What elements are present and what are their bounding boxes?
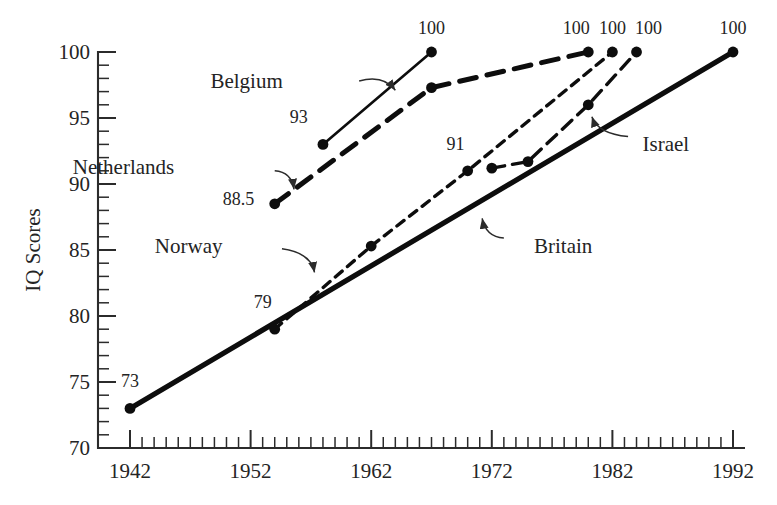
data-point-norway: [366, 241, 377, 252]
y-axis-title: IQ Scores: [21, 208, 45, 291]
y-tick-label: 75: [69, 370, 90, 394]
series-line-norway: [275, 52, 613, 329]
point-value-label: 100: [599, 18, 626, 38]
point-value-label: 88.5: [223, 189, 255, 209]
data-point-israel: [631, 47, 642, 58]
x-tick-label: 1952: [230, 459, 272, 483]
annotation-leader-norway: [282, 249, 315, 273]
x-tick-label: 1972: [471, 459, 513, 483]
series-line-britain: [130, 52, 733, 408]
series-annotations-group: BelgiumNetherlandsNorwayBritainIsrael: [73, 69, 690, 272]
series-annotation-norway: Norway: [155, 234, 223, 258]
y-tick-label: 100: [59, 40, 91, 64]
data-point-netherlands: [269, 198, 280, 209]
point-value-label: 79: [254, 292, 272, 312]
y-tick-label: 95: [69, 106, 90, 130]
y-tick-label: 70: [69, 436, 90, 460]
iq-scores-line-chart: 707580859095100194219521962197219821992 …: [0, 0, 777, 505]
data-point-israel: [523, 156, 534, 167]
x-tick-label: 1942: [109, 459, 151, 483]
y-tick-label: 80: [69, 304, 90, 328]
data-point-norway: [607, 47, 618, 58]
x-tick-label: 1992: [712, 459, 754, 483]
point-value-label: 93: [290, 107, 308, 127]
axes-group: 707580859095100194219521962197219821992: [59, 40, 755, 483]
data-point-britain: [728, 47, 739, 58]
annotation-leader-netherlands: [275, 171, 294, 189]
point-value-label: 100: [635, 18, 662, 38]
point-value-label: 100: [720, 18, 747, 38]
point-value-label: 73: [121, 371, 139, 391]
series-annotation-belgium: Belgium: [210, 69, 282, 93]
y-axis-title-group: IQ Scores: [21, 208, 45, 291]
data-point-norway: [462, 165, 473, 176]
series-group: [130, 52, 733, 408]
data-point-netherlands: [426, 82, 437, 93]
point-value-label: 91: [447, 134, 465, 154]
data-point-israel: [486, 163, 497, 174]
data-point-britain: [125, 403, 136, 414]
series-annotation-britain: Britain: [534, 234, 593, 258]
data-point-belgium: [426, 47, 437, 58]
data-point-belgium: [318, 139, 329, 150]
data-point-netherlands: [583, 47, 594, 58]
series-annotation-netherlands: Netherlands: [73, 155, 174, 179]
series-line-netherlands: [275, 52, 589, 204]
y-tick-label: 85: [69, 238, 90, 262]
x-tick-label: 1982: [591, 459, 633, 483]
point-value-label: 100: [418, 18, 445, 38]
data-point-norway: [269, 324, 280, 335]
point-value-label: 100: [563, 18, 590, 38]
x-tick-label: 1962: [350, 459, 392, 483]
series-annotation-israel: Israel: [643, 132, 690, 156]
data-point-israel: [583, 99, 594, 110]
annotation-leader-britain: [482, 218, 504, 238]
chart-plot-area: 707580859095100194219521962197219821992 …: [0, 0, 777, 505]
